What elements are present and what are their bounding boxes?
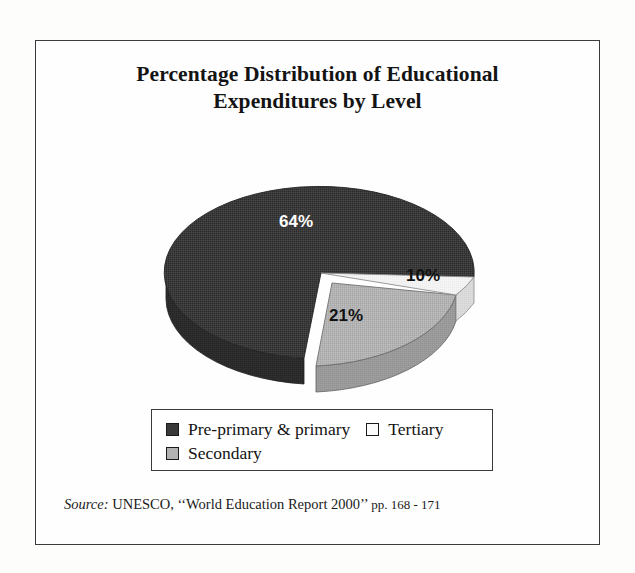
chart-title: Percentage Distribution of Educational E…: [36, 61, 599, 115]
legend-item-secondary: Secondary: [166, 443, 262, 464]
source-text: UNESCO, ‘‘World Education Report 2000’’: [112, 496, 367, 512]
legend-label-secondary: Secondary: [188, 443, 262, 464]
pie-chart: 64% 21% 10%: [156, 161, 501, 406]
slice-label-pre-primary: 64%: [279, 212, 313, 231]
legend-item-pre-primary-and-primary: Pre-primary & primary: [166, 419, 350, 440]
slice-label-secondary: 21%: [329, 306, 363, 325]
legend-item-tertiary: Tertiary: [366, 419, 443, 440]
source-pages: pp. 168 - 171: [371, 497, 440, 512]
slice-label-tertiary: 10%: [406, 266, 440, 285]
legend-label-tertiary: Tertiary: [388, 419, 443, 440]
source-label: Source:: [64, 496, 109, 512]
legend-row-1: Pre-primary & primary Tertiary: [166, 417, 492, 441]
figure-frame: Percentage Distribution of Educational E…: [35, 40, 600, 545]
scanned-page: Percentage Distribution of Educational E…: [0, 0, 635, 573]
chart-title-line-1: Percentage Distribution of Educational: [36, 61, 599, 88]
chart-legend: Pre-primary & primary Tertiary Secondary: [151, 409, 493, 471]
legend-swatch-secondary: [166, 447, 179, 460]
chart-title-line-2: Expenditures by Level: [36, 88, 599, 115]
source-note: Source: UNESCO, ‘‘World Education Report…: [64, 496, 441, 513]
legend-row-2: Secondary: [166, 441, 492, 465]
legend-swatch-tertiary: [366, 423, 379, 436]
pie-chart-svg: 64% 21% 10%: [156, 161, 501, 406]
legend-swatch-pre-primary-and-primary: [166, 423, 179, 436]
legend-label-pre-primary-and-primary: Pre-primary & primary: [188, 419, 350, 440]
